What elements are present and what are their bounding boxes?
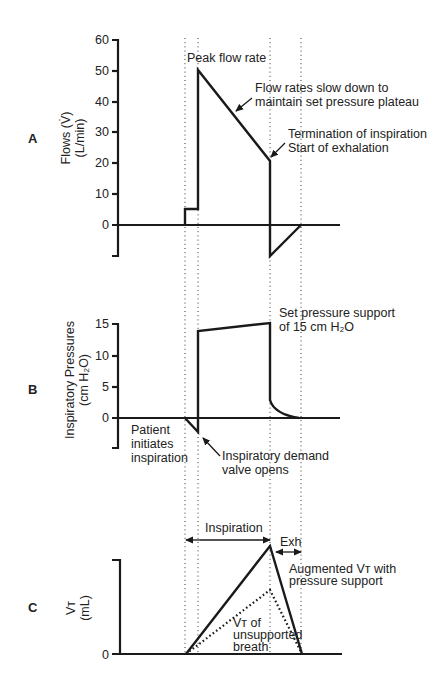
annotation-set-pressure-2: of 15 cm H₂O [279, 320, 354, 334]
tick-label: 10 [95, 187, 109, 201]
annotation-augmented-2: pressure support [289, 574, 383, 588]
annotation-inspiration: Inspiration [205, 521, 263, 535]
tick-label: 0 [102, 218, 109, 232]
tick-label: 0 [102, 411, 109, 425]
annotation-termination-2: Start of exhalation [288, 141, 389, 155]
tick-label: 20 [95, 156, 109, 170]
panel-a-ylabel-2: (L/min) [73, 119, 87, 158]
tick-label: 60 [95, 33, 109, 47]
annotation-exh: Exh [280, 535, 302, 549]
annotation-patient-2: initiates [131, 437, 173, 451]
annotation-set-pressure-1: Set pressure support [279, 306, 396, 320]
panel-label-b: B [28, 382, 37, 397]
annotation-flow-slow-1: Flow rates slow down to [255, 81, 388, 95]
annotation-patient-3: inspiration [131, 451, 188, 465]
ventilator-waveform-diagram: A Flows (V̇) (L/min) 60 50 40 30 20 10 0… [0, 0, 432, 687]
tick-label: 30 [95, 125, 109, 139]
panel-label-c: C [28, 600, 38, 615]
panel-a-y-axis [112, 40, 118, 256]
arrow-icon [203, 438, 220, 456]
annotation-valve-2: valve opens [222, 463, 289, 477]
panel-c: C Vᴛ (mL) 0 Inspiration Exh Augmented Vᴛ… [28, 521, 396, 662]
tick-label: 50 [95, 64, 109, 78]
panel-c-y-axis [112, 560, 120, 654]
panel-a-ylabel-1: Flows (V̇) [59, 112, 73, 165]
annotation-peak-flow: Peak flow rate [187, 51, 266, 65]
tick-label: 5 [102, 380, 109, 394]
annotation-valve-1: Inspiratory demand [222, 449, 329, 463]
panel-a: A Flows (V̇) (L/min) 60 50 40 30 20 10 0… [28, 33, 427, 256]
guide-lines [185, 38, 301, 655]
panel-c-ylabel-2: (mL) [78, 595, 92, 621]
tick-label: 40 [95, 95, 109, 109]
panel-b: B Inspiratory Pressures (cm H₂O) 15 10 5… [28, 306, 396, 477]
panel-b-ylabel-2: (cm H₂O) [77, 354, 91, 406]
tick-label: 10 [95, 349, 109, 363]
annotation-unsupported-3: breath [233, 640, 268, 654]
tick-label: 15 [95, 317, 109, 331]
tick-label: 0 [102, 648, 109, 662]
panel-label-a: A [28, 131, 38, 146]
panel-b-ylabel-1: Inspiratory Pressures [63, 321, 77, 439]
arrow-icon [271, 143, 285, 157]
annotation-flow-slow-2: maintain set pressure plateau [255, 95, 419, 109]
arrow-icon [236, 98, 252, 111]
panel-c-ylabel-1: Vᴛ [64, 601, 78, 615]
pressure-curve [185, 323, 299, 432]
annotation-termination-1: Termination of inspiration [288, 127, 427, 141]
annotation-patient-1: Patient [131, 423, 170, 437]
